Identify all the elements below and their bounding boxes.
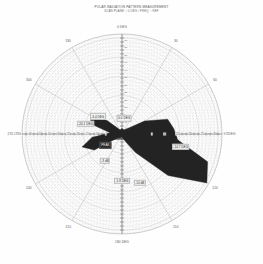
polar-chart-screenshot: POLAR RADIATION PATTERN MEASUREMENT SCAN… xyxy=(0,0,263,264)
h-tick-label-left-0: -60 xyxy=(28,132,32,135)
perimeter-label-180: 180 DEG xyxy=(115,240,130,244)
h-tick-label-right-3: -20 xyxy=(188,132,192,135)
perimeter-label-240: 240 xyxy=(26,186,32,190)
annotation-callout-0: -20.1 DEG xyxy=(77,120,95,126)
h-axis-end-right: -70 xyxy=(225,132,229,135)
annotation-callout-2: -1.8 DEG xyxy=(114,178,130,184)
h-tick-label-right-1: -10 xyxy=(163,132,167,135)
chart-title-block: POLAR RADIATION PATTERN MEASUREMENT SCAN… xyxy=(0,6,263,13)
v-tick-label-11: -60 xyxy=(124,39,127,41)
v-tick-label-10: -55 xyxy=(124,46,127,48)
perimeter-label-300: 300 xyxy=(26,78,32,82)
v-tick-label-4: -25 xyxy=(124,91,127,93)
perimeter-label-0: 0 DEG xyxy=(117,25,128,29)
annotation-callout-3: 0.0 DEG xyxy=(117,115,132,121)
v-tick-label-3: -20 xyxy=(124,99,127,101)
annotation-callout-5: PEAK xyxy=(100,142,111,148)
h-tick-label-left-2: -40 xyxy=(47,132,51,135)
perimeter-label-210: 210 xyxy=(65,225,71,229)
chart-subtitle: SCAN PLANE :: 0 DEG / FREQ :: REF xyxy=(0,10,263,14)
h-tick-label-left-3: -30 xyxy=(57,132,61,135)
v-tick-label-7: -40 xyxy=(124,69,127,71)
h-tick-label-left-5: -20 xyxy=(76,132,80,135)
h-tick-label-left-1: -50 xyxy=(38,132,42,135)
v-tick-label-6: -35 xyxy=(124,76,127,78)
h-tick-label-right-2: -15 xyxy=(175,132,179,135)
v-tick-label-5: -30 xyxy=(124,84,127,86)
chart-title: POLAR RADIATION PATTERN MEASUREMENT xyxy=(0,6,263,10)
v-tick-label-9: -50 xyxy=(124,54,127,56)
perimeter-label-30: 30 xyxy=(174,39,179,43)
h-tick-label-left-7: -10 xyxy=(95,132,99,135)
h-tick-label-left-4: -25 xyxy=(66,132,70,135)
h-axis-end-left: -70 xyxy=(15,132,19,135)
perimeter-label-150: 150 xyxy=(173,225,179,229)
h-tick-label-left-6: -15 xyxy=(85,132,89,135)
h-tick-label-right-5: -30 xyxy=(213,132,217,135)
annotation-callout-7: -10 dB xyxy=(134,180,146,186)
annotation-callout-1: -3.4 DEG xyxy=(90,113,106,119)
perimeter-label-60: 60 xyxy=(213,78,218,82)
v-tick-label-8: -45 xyxy=(124,61,127,63)
annotation-callout-4: -14.7 DEG xyxy=(172,143,190,149)
perimeter-label-330: 330 xyxy=(65,39,71,43)
h-tick-label-right-0: -5 xyxy=(151,132,153,135)
annotation-callout-6: -3 dB xyxy=(100,158,110,164)
perimeter-label-120: 120 xyxy=(212,186,218,190)
h-tick-label-left-8: -5 xyxy=(105,132,107,135)
v-tick-label-2: -15 xyxy=(124,106,127,108)
h-tick-label-right-4: -25 xyxy=(200,132,204,135)
